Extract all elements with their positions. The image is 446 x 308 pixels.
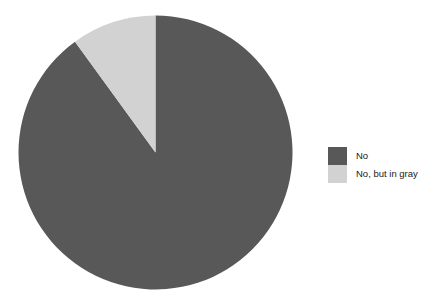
legend-label-no: No (356, 147, 368, 165)
legend-label-no-but-in-gray: No, but in gray (356, 165, 418, 183)
legend-item-no-but-in-gray[interactable]: No, but in gray (328, 165, 418, 183)
legend-item-no[interactable]: No (328, 147, 418, 165)
legend-swatch-no-but-in-gray (328, 165, 347, 183)
legend-swatch-no (328, 147, 347, 165)
chart-legend: No No, but in gray (328, 147, 418, 183)
pie-slice-group (18, 16, 292, 290)
pie-chart: No No, but in gray (0, 0, 446, 308)
